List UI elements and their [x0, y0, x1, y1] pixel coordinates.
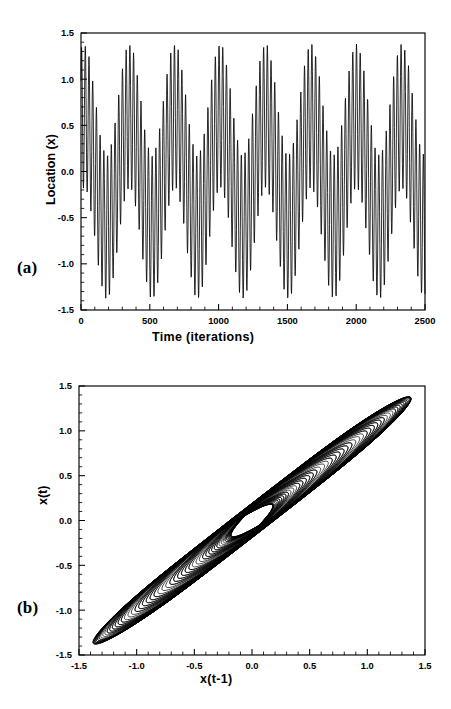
- y-axis-title-a: Location (x): [44, 134, 58, 205]
- plot-frame-b: [79, 386, 425, 655]
- y-tick-label-b: 0.0: [59, 515, 72, 526]
- y-tick-label-a: -1.5: [58, 304, 74, 315]
- x-axis-title-b: x(t-1): [200, 672, 232, 686]
- y-tick-label-a: 0.5: [61, 120, 74, 131]
- x-tick-label-b: 0.0: [245, 660, 258, 671]
- x-tick-label-a: 2500: [415, 315, 436, 326]
- y-axis-title-b: x(t): [36, 486, 50, 505]
- y-tick-label-b: 1.0: [59, 425, 72, 436]
- x-tick-label-a: 0: [78, 315, 83, 326]
- y-tick-label-b: -0.5: [56, 560, 72, 571]
- torus-trajectory-b: [93, 397, 411, 644]
- x-axis-title-a: Time (iterations): [152, 330, 254, 344]
- x-tick-label-b: -1.0: [129, 660, 145, 671]
- phase-portrait-plot: -1.5-1.0-0.50.00.51.01.5-1.5-1.0-0.50.00…: [0, 360, 451, 709]
- y-tick-label-b: -1.0: [56, 605, 72, 616]
- x-tick-label-b: -1.5: [71, 660, 87, 671]
- y-tick-label-a: 1.5: [61, 27, 74, 38]
- series-line-a: [81, 44, 425, 298]
- x-tick-label-b: -0.5: [186, 660, 202, 671]
- y-tick-label-b: -1.5: [56, 649, 72, 660]
- x-tick-label-b: 0.5: [303, 660, 316, 671]
- y-tick-label-a: 1.0: [61, 74, 74, 85]
- y-tick-label-a: 0.0: [61, 166, 74, 177]
- panel-label-b: (b): [17, 598, 38, 618]
- y-tick-label-a: -0.5: [58, 212, 74, 223]
- x-tick-label-b: 1.5: [418, 660, 431, 671]
- x-tick-label-a: 500: [142, 315, 158, 326]
- x-tick-label-a: 1000: [208, 315, 229, 326]
- x-tick-label-b: 1.0: [361, 660, 374, 671]
- y-tick-label-a: -1.0: [58, 258, 74, 269]
- time-series-plot: -1.5-1.0-0.50.00.51.01.50500100015002000…: [0, 0, 451, 360]
- panel-label-a: (a): [17, 258, 37, 278]
- panel-b: -1.5-1.0-0.50.00.51.01.5-1.5-1.0-0.50.00…: [0, 360, 451, 709]
- panel-a: -1.5-1.0-0.50.00.51.01.50500100015002000…: [0, 0, 451, 360]
- x-tick-label-a: 1500: [277, 315, 298, 326]
- y-tick-label-b: 0.5: [59, 470, 72, 481]
- y-tick-label-b: 1.5: [59, 380, 72, 391]
- x-tick-label-a: 2000: [346, 315, 367, 326]
